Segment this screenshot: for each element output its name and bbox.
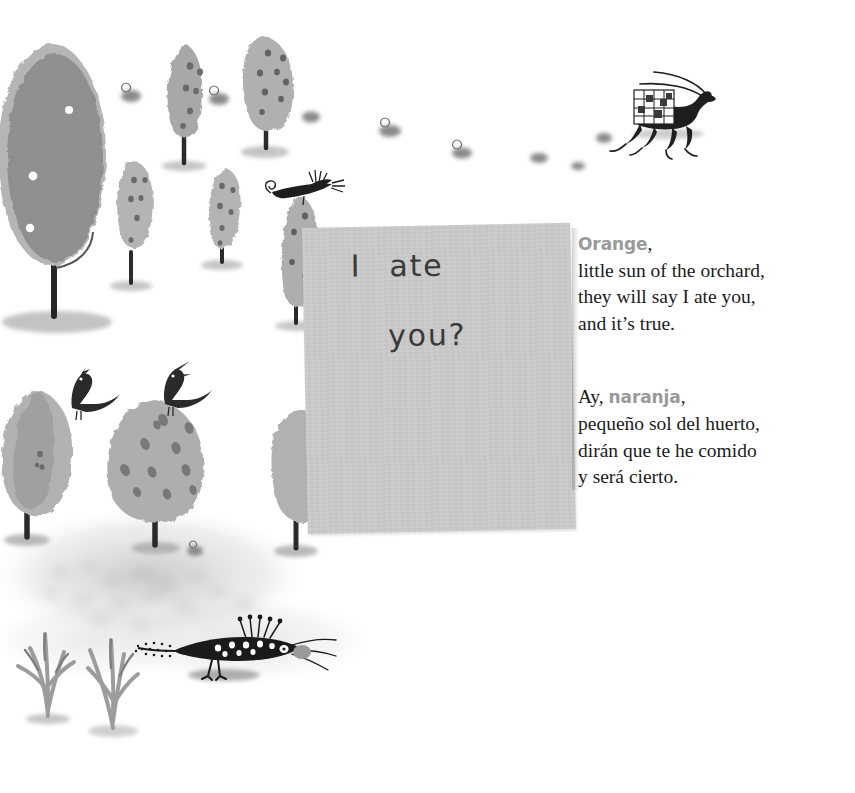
note-word-i: I (351, 248, 362, 283)
orange-crate (634, 90, 674, 124)
poem-block: Orange, little sun of the orchard, they … (578, 231, 840, 491)
poem-line-es-1: Ay, naranja, (578, 384, 840, 411)
lead-ay: Ay, (578, 386, 609, 407)
poem-line-en-1: Orange, (578, 231, 840, 258)
stanza-spanish: Ay, naranja, pequeño sol del huerto, dir… (578, 384, 840, 490)
poem-line-es-2: pequeño sol del huerto, (578, 411, 840, 438)
note-line-2: you? (388, 317, 467, 353)
kicker-naranja: naranja (609, 387, 681, 407)
poem-line-es-4: y será cierto. (578, 464, 840, 491)
handwritten-note-card[interactable]: Iate you? (302, 223, 576, 534)
poem-line-en-3: they will say I ate you, (578, 284, 840, 311)
kicker-orange: Orange (578, 234, 648, 254)
poem-line-en-4: and it’s true. (578, 311, 840, 338)
kicker-naranja-comma: , (681, 386, 686, 407)
kicker-orange-comma: , (648, 233, 653, 254)
note-line-1: Iate (351, 248, 444, 284)
note-word-ate: ate (389, 248, 443, 283)
poem-line-es-3: dirán que te he comido (578, 438, 840, 465)
illustrated-poem-page: Iate you? Orange, little sun of the orch… (0, 0, 855, 793)
stanza-english: Orange, little sun of the orchard, they … (578, 231, 840, 337)
poem-line-en-2: little sun of the orchard, (578, 258, 840, 285)
